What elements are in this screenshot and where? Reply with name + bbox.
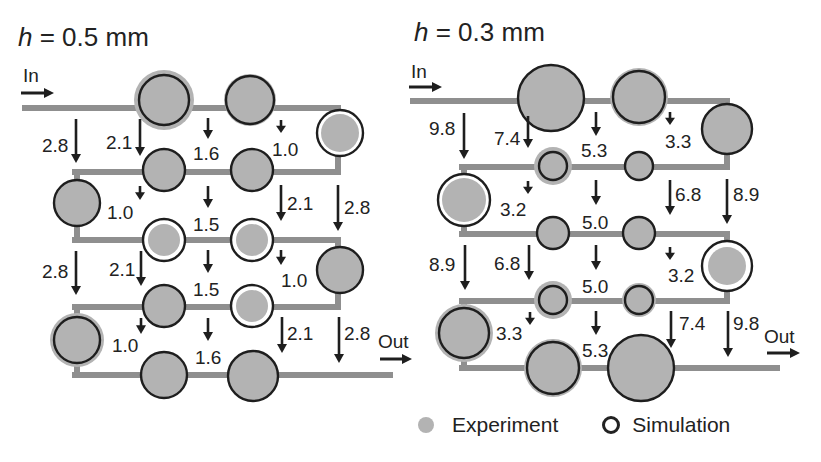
flow-arrow-icon [723,311,733,357]
chamber-node [231,219,273,261]
experiment-disc [623,217,655,249]
inlet-label: In [23,65,39,86]
experiment-marker-icon [418,417,434,433]
flow-rate-label: 2.8 [42,261,68,282]
flow-rate-label: 1.5 [193,214,219,235]
flow-rate-label: 5.0 [582,212,608,233]
legend-experiment-label: Experiment [452,413,558,437]
experiment-disc [141,352,187,398]
simulation-marker-icon [602,416,620,434]
chamber-node [623,217,655,249]
flow-rate-label: 6.8 [494,253,520,274]
flow-rate-label: 2.1 [287,323,313,344]
experiment-disc [321,114,359,152]
flow-arrow-icon [135,119,145,156]
chamber-node [228,351,278,401]
flow-rate-label: 9.8 [733,313,759,334]
flow-rate-label: 7.4 [679,313,706,334]
chamber-node [534,281,572,319]
flow-rate-label: 2.8 [42,135,68,156]
flow-arrow-icon [276,185,286,221]
experiment-disc [236,290,268,322]
flow-rate-label: 1.0 [281,270,307,291]
flow-arrow-icon [665,180,675,215]
flow-rate-label: 2.1 [106,132,132,153]
chamber-node [317,247,363,293]
flow-rate-label: 1.6 [193,143,219,164]
flow-rate-label: 2.1 [109,259,135,280]
chamber-node [317,110,363,156]
legend: Experiment Simulation [418,413,730,437]
chamber-node [143,219,185,261]
experiment-disc [702,104,752,154]
flow-arrow-icon [591,112,601,136]
outlet-label: Out [378,331,409,352]
chamber-node [143,285,185,327]
experiment-disc [708,247,746,285]
chamber-node [622,283,656,317]
flow-rate-label: 5.3 [581,140,607,161]
experiment-disc [608,335,674,401]
flow-rate-label: 3.3 [496,323,522,344]
chamber-node [537,217,569,249]
chamber-node [134,70,194,130]
network-diagram: 2.82.11.61.01.01.52.12.82.82.11.51.01.01… [0,0,821,462]
flow-arrow-icon [136,318,146,334]
flow-rate-label: 3.2 [500,199,526,220]
experiment-disc [442,178,486,222]
experiment-disc [524,339,582,397]
experiment-disc [54,180,100,226]
flow-arrow-icon [135,186,145,200]
chamber-node [224,74,276,126]
inlet-arrow-icon [409,82,442,92]
flow-rate-label: 3.2 [668,265,694,286]
experiment-disc [143,285,185,327]
chamber-node [435,304,493,362]
chamber-node [524,339,582,397]
flow-arrow-icon [665,112,675,125]
flow-arrow-icon [276,120,286,133]
flow-arrow-icon [277,317,287,353]
flow-rate-label: 1.5 [193,279,219,300]
panel-h03: 9.87.45.33.33.25.06.88.98.96.85.03.23.35… [409,61,800,401]
flow-arrow-icon [591,311,601,335]
experiment-disc [610,68,668,126]
flow-rate-label: 2.1 [287,193,313,214]
chamber-node [702,241,752,291]
flow-rate-label: 1.0 [112,335,138,356]
chamber-node [231,285,273,327]
chamber-node [50,313,104,367]
flow-network-figure: h = 0.5 mm h = 0.3 mm 2.82.11.61.01.01.5… [0,0,821,462]
experiment-disc [236,224,268,256]
experiment-disc [228,351,278,401]
flow-arrow-icon [203,318,213,341]
flow-arrow-icon [333,185,343,231]
chamber-node [534,147,572,185]
experiment-disc [317,247,363,293]
flow-arrow-icon [523,181,533,194]
chamber-node [702,104,752,154]
inlet-label: In [411,61,427,82]
flow-rate-label: 5.3 [582,340,608,361]
experiment-disc [50,313,104,367]
flow-rate-label: 1.6 [195,347,221,368]
flow-arrow-icon [203,186,213,208]
chamber-node [608,335,674,401]
flow-arrow-icon [524,245,534,280]
flow-rate-label: 8.9 [429,254,455,275]
flow-arrow-icon [203,250,213,273]
flow-arrow-icon [459,113,469,159]
outlet-arrow-icon [380,354,412,364]
flow-arrow-icon [203,118,213,139]
chamber-node [610,68,668,126]
experiment-disc [622,283,656,317]
flow-arrow-icon [591,245,601,270]
experiment-disc [537,217,569,249]
flow-arrow-icon [460,245,470,290]
flow-rate-label: 7.4 [494,128,521,149]
experiment-disc [224,74,276,126]
experiment-disc [134,70,194,130]
flow-rate-label: 2.8 [344,323,370,344]
chamber-node [438,174,490,226]
chamber-node [141,352,187,398]
